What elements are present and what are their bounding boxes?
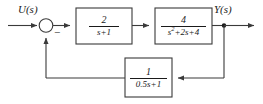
summing-junction-circle	[39, 19, 53, 33]
forward-block-2-numerator: 4	[181, 15, 186, 26]
feedback-block-denominator: 0.5s+1	[136, 79, 161, 89]
block-diagram-canvas: U(s) Y(s) − 2 s+1 4 s2+2s+4 1 0.5s+1	[0, 0, 263, 104]
forward-block-1-numerator: 2	[102, 15, 107, 26]
forward-block-2-denominator: s2+2s+4	[168, 27, 199, 37]
forward-block-2-denominator-suffix: +2s+4	[175, 27, 200, 37]
forward-block-1-denominator: s+1	[97, 27, 111, 37]
feedback-block-transfer-function: 1 0.5s+1	[130, 64, 167, 91]
forward-block-2-transfer-function: 4 s2+2s+4	[161, 13, 206, 39]
input-signal-label: U(s)	[18, 4, 38, 15]
feedback-block-numerator: 1	[146, 67, 151, 78]
output-signal-label: Y(s)	[214, 4, 232, 15]
feedback-negative-sign: −	[54, 27, 60, 38]
forward-block-1-transfer-function: 2 s+1	[89, 13, 119, 39]
